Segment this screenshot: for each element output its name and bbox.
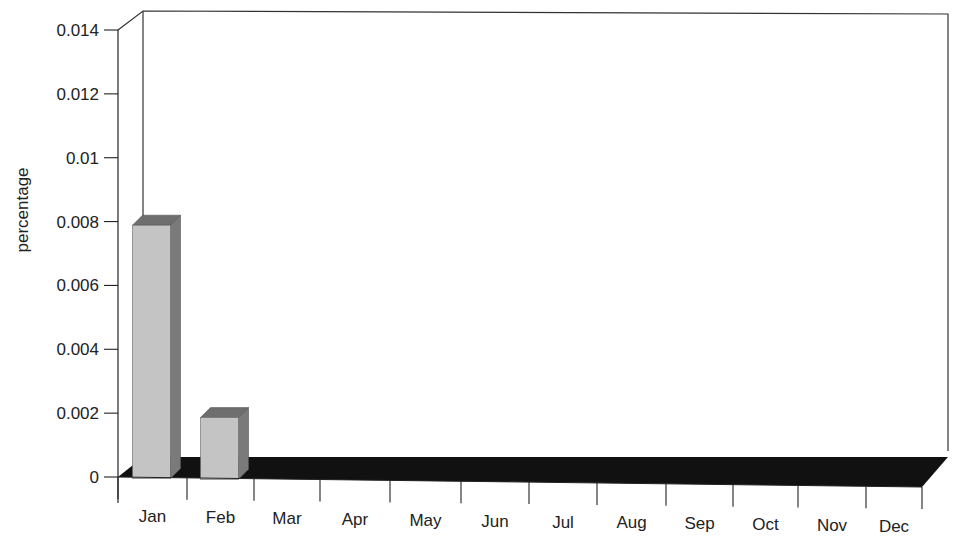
- x-tick-label: Jul: [552, 513, 574, 532]
- x-tick-label: Nov: [817, 516, 848, 535]
- bar-jan: [133, 215, 181, 478]
- x-tick-label: Apr: [342, 510, 369, 529]
- x-tick-label: Aug: [616, 513, 646, 532]
- back-wall-outline: [118, 11, 948, 451]
- y-tick-label: 0.008: [56, 213, 99, 232]
- bar-feb: [201, 408, 249, 480]
- x-tick-label: Sep: [684, 514, 714, 533]
- x-tick-label: Jun: [481, 512, 508, 531]
- chart-walls: [118, 11, 948, 459]
- y-tick-label: 0.006: [56, 276, 99, 295]
- y-axis: 00.0020.0040.0060.0080.010.0120.014: [56, 21, 118, 503]
- y-tick-label: 0.014: [56, 21, 99, 40]
- y-tick-label: 0.012: [56, 85, 99, 104]
- x-tick-label: Feb: [206, 508, 235, 527]
- y-tick-label: 0.004: [56, 340, 99, 359]
- x-tick-label: Jan: [139, 507, 166, 526]
- y-axis-title: percentage: [13, 167, 32, 252]
- x-tick-label: Mar: [272, 509, 302, 528]
- y-tick-label: 0.01: [66, 149, 99, 168]
- x-tick-label: Dec: [879, 517, 910, 536]
- x-axis: JanFebMarAprMayJunJulAugSepOctNovDec: [118, 477, 922, 536]
- chart-bars: [133, 215, 249, 479]
- bar-chart-3d: 00.0020.0040.0060.0080.010.0120.014 JanF…: [0, 0, 953, 544]
- y-tick-label: 0.002: [56, 404, 99, 423]
- x-tick-label: Oct: [752, 515, 779, 534]
- y-tick-label: 0: [90, 468, 99, 487]
- x-tick-label: May: [409, 511, 442, 530]
